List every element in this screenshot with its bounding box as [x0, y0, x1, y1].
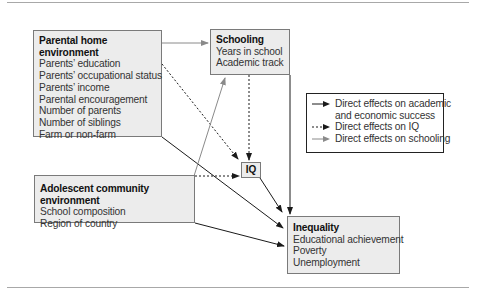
solid-black-arrow-icon	[311, 98, 331, 109]
box-item: Number of parents	[39, 105, 156, 117]
box-item: Academic track	[216, 57, 284, 69]
box-item: Poverty	[293, 245, 394, 257]
box-title: Inequality	[293, 222, 394, 234]
edge-iq-inequality	[260, 178, 282, 212]
box-item: School composition	[40, 206, 189, 218]
box-item: Region of country	[40, 218, 189, 230]
dotted-black-arrow-icon	[311, 121, 331, 132]
parental-home-environment-box: Parental home environment Parents’ educa…	[33, 30, 162, 137]
legend-item-schooling: Direct effects on schooling	[311, 133, 439, 145]
legend-label: Direct effects on schooling	[335, 133, 450, 145]
box-item: Number of siblings	[39, 117, 156, 129]
schooling-box: Schooling Years in school Academic track	[210, 29, 290, 75]
box-item: Parents’ income	[39, 82, 156, 94]
adolescent-community-environment-box: Adolescent community environment School …	[34, 175, 195, 223]
legend-item-iq: Direct effects on IQ	[311, 121, 439, 133]
solid-gray-arrow-icon	[311, 133, 331, 144]
edge-adolescent-inequality	[195, 223, 284, 246]
legend-item-academic-economic: Direct effects on academic and economic …	[311, 98, 439, 121]
box-item: Years in school	[216, 46, 284, 58]
box-item: Farm or non-farm	[39, 129, 156, 141]
box-title: Schooling	[216, 34, 284, 46]
box-title: Adolescent community environment	[40, 183, 189, 206]
inequality-box: Inequality Educational achievement Pover…	[287, 216, 400, 274]
box-item: Parents’ education	[39, 58, 156, 70]
iq-box: IQ	[241, 162, 261, 178]
legend-label: Direct effects on academic and economic …	[335, 98, 451, 121]
box-item: Unemployment	[293, 257, 394, 269]
box-title: Parental home environment	[39, 35, 156, 58]
edge-parental-iq	[162, 64, 238, 159]
legend-label: Direct effects on IQ	[335, 121, 419, 133]
edge-adolescent-schooling	[194, 78, 225, 176]
box-item: Educational achievement	[293, 234, 394, 246]
box-item: Parental encouragement	[39, 94, 156, 106]
legend: Direct effects on academic and economic …	[306, 93, 444, 153]
box-item: Parents’ occupational status	[39, 70, 156, 82]
